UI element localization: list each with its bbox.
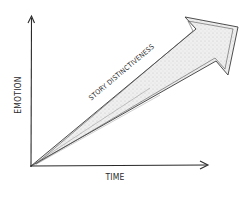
x-axis <box>30 161 208 169</box>
y-axis-label: EMOTION <box>13 76 23 114</box>
x-axis-label: TIME <box>104 172 124 182</box>
arrow-fill <box>31 17 238 166</box>
diagram-canvas: EMOTION TIME STORY DISTINCTIVENESS <box>0 0 245 198</box>
story-distinctiveness-arrow <box>31 17 238 166</box>
y-axis <box>28 16 35 167</box>
